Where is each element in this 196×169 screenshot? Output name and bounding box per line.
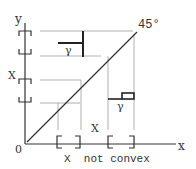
angle-label: 45° <box>138 18 160 32</box>
horizontal-guides <box>40 31 133 103</box>
set-x-label-left: X <box>8 69 16 82</box>
bracket-x2-right <box>129 136 134 148</box>
x-axis-brackets <box>57 136 134 148</box>
lower-gamma-box <box>122 93 134 99</box>
convexity-diagram: y x 0 45° X X γ γ X not convex <box>0 0 196 169</box>
y-axis-label: y <box>14 12 22 26</box>
bracket-x1-right <box>75 136 80 148</box>
bracket-x2-left <box>108 136 113 148</box>
upper-gamma-label: γ <box>65 44 72 57</box>
lower-gamma-label: γ <box>117 100 124 113</box>
lower-gamma-shape <box>108 93 134 99</box>
x-axis-label: x <box>178 139 185 153</box>
caption: X not convex <box>64 153 150 165</box>
set-x-label-middle: X <box>91 122 99 135</box>
origin-label: 0 <box>15 143 22 156</box>
bracket-x1-left <box>57 136 62 148</box>
axes <box>25 23 176 144</box>
